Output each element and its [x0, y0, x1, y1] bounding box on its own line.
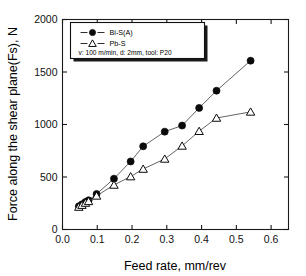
y-axis-title: Force along the shear plane(Fs), N	[6, 27, 20, 221]
y-tick-label: 500	[40, 171, 58, 183]
x-tick-label: 0.4	[194, 233, 209, 245]
data-point	[140, 143, 147, 150]
x-tick-label: 0.6	[264, 233, 279, 245]
x-axis-title: Feed rate, mm/rev	[124, 259, 227, 273]
data-point	[247, 57, 254, 64]
x-tick-label: 0.5	[229, 233, 244, 245]
x-tick-label: 0.2	[125, 233, 140, 245]
chart-canvas: 0.00.10.20.30.40.50.6 0500100015002000 B…	[0, 0, 306, 276]
chart-figure: 0.00.10.20.30.40.50.6 0500100015002000 B…	[0, 0, 306, 276]
legend-label: Bi-S(A)	[110, 28, 133, 37]
data-point	[196, 104, 203, 111]
y-tick-label: 1500	[34, 66, 58, 78]
y-tick-label: 2000	[34, 13, 58, 25]
legend-label: Pb-S	[110, 39, 126, 48]
data-point	[179, 122, 186, 129]
y-tick-label: 0	[52, 223, 58, 235]
x-tick-label: 0.3	[160, 233, 175, 245]
y-tick-label: 1000	[34, 118, 58, 130]
data-point	[213, 87, 220, 94]
data-point	[127, 158, 134, 165]
x-tick-label: 0.1	[90, 233, 105, 245]
legend-conditions: v: 100 m/min, d: 2mm, tool: P20	[79, 49, 172, 56]
legend-marker-filled-circle-icon	[89, 29, 95, 35]
data-point	[161, 128, 168, 135]
chart-legend: Bi-S(A)Pb-Sv: 100 m/min, d: 2mm, tool: P…	[71, 23, 208, 62]
